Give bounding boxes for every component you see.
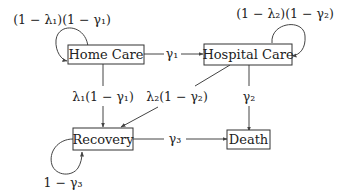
edge-label-home-to-hospital: γ₁ <box>166 46 178 61</box>
node-label: Recovery <box>72 132 134 147</box>
node-label: Home Care <box>69 47 144 62</box>
node-label: Hospital Care <box>202 47 293 62</box>
edge-home-to-recovery: λ₁(1 − γ₁) <box>72 64 134 127</box>
node-hospital-care: Hospital Care <box>202 44 293 65</box>
node-label: Death <box>229 132 269 147</box>
edge-label-hospital-self: (1 − λ₂)(1 − γ₂) <box>236 6 334 21</box>
node-death: Death <box>227 130 270 149</box>
edge-label-home-self: (1 − λ₁)(1 − γ₁) <box>13 12 111 27</box>
node-recovery: Recovery <box>72 128 134 150</box>
edge-label-recovery-to-death: γ₃ <box>169 131 181 146</box>
edge-home-to-hospital: γ₁ <box>144 46 203 61</box>
edge-label-hospital-to-death: γ₂ <box>243 89 255 104</box>
edge-label-hospital-to-recovery: λ₂(1 − γ₂) <box>146 89 208 104</box>
arrow-diagonal-icon <box>121 107 158 127</box>
edge-line <box>195 65 230 86</box>
edge-hospital-to-death: γ₂ <box>243 65 255 131</box>
edge-hospital-to-recovery: λ₂(1 − γ₂) <box>121 65 230 127</box>
node-home-care: Home Care <box>68 45 144 64</box>
edge-label-recovery-self: 1 − γ₃ <box>44 175 83 190</box>
edge-label-home-to-recovery: λ₁(1 − γ₁) <box>72 89 134 104</box>
state-transition-diagram: (1 − λ₁)(1 − γ₁) γ₁ (1 − λ₂)(1 − γ₂) λ₁(… <box>0 0 358 196</box>
edge-recovery-to-death: γ₃ <box>133 131 227 146</box>
